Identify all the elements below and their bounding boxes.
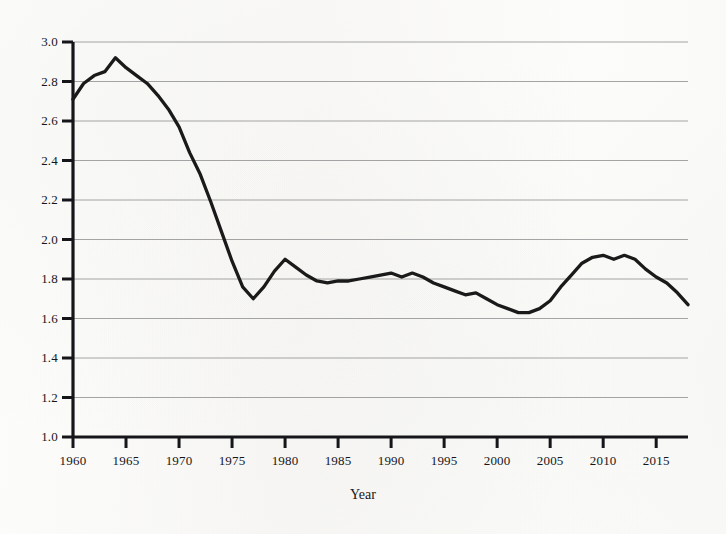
y-tick-label: 1.6 [18, 311, 58, 327]
chart-plot-area [0, 0, 726, 534]
x-axis-title: Year [0, 487, 726, 503]
x-tick-label: 2015 [643, 453, 670, 469]
y-tick-label: 1.8 [18, 271, 58, 287]
y-tick-label: 2.8 [18, 74, 58, 90]
x-tick-label: 2005 [537, 453, 564, 469]
line-chart-figure: 3.02.82.62.42.22.01.81.61.41.21.0 196019… [0, 0, 726, 534]
y-tick-label: 1.4 [18, 350, 58, 366]
y-tick-label: 2.4 [18, 153, 58, 169]
x-tick-label: 1960 [60, 453, 87, 469]
y-tick-label: 2.0 [18, 232, 58, 248]
x-tick-label: 1995 [431, 453, 458, 469]
y-axis-ticks [62, 42, 73, 437]
x-tick-label: 1990 [378, 453, 405, 469]
x-tick-label: 1980 [272, 453, 299, 469]
y-tick-label: 1.0 [18, 429, 58, 445]
y-tick-label: 1.2 [18, 390, 58, 406]
y-tick-label: 2.2 [18, 192, 58, 208]
y-tick-label: 3.0 [18, 34, 58, 50]
y-tick-label: 2.6 [18, 113, 58, 129]
x-tick-label: 2000 [484, 453, 511, 469]
gridlines-group [73, 42, 688, 398]
x-axis-ticks [73, 437, 656, 448]
x-tick-label: 1985 [325, 453, 352, 469]
x-tick-label: 2010 [590, 453, 617, 469]
x-tick-label: 1965 [113, 453, 140, 469]
x-tick-label: 1975 [219, 453, 246, 469]
x-tick-label: 1970 [166, 453, 193, 469]
data-series-line [73, 58, 688, 313]
